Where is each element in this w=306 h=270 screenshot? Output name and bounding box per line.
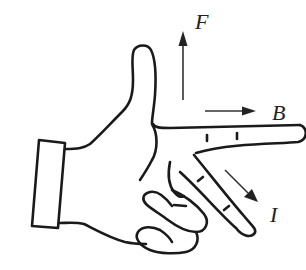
middle-knuckle-1 <box>198 177 203 181</box>
hand-outline-lower <box>59 223 146 244</box>
sleeve-cuff <box>32 140 65 228</box>
left-hand-rule-diagram: F B I <box>0 0 306 270</box>
field-arrow-head <box>242 107 256 116</box>
middle-finger <box>180 155 255 236</box>
ring-finger <box>143 190 206 232</box>
force-arrow-head <box>179 31 188 46</box>
force-label: F <box>194 9 209 34</box>
current-arrow-shaft <box>225 170 248 193</box>
middle-knuckle-2 <box>224 206 229 210</box>
field-label: B <box>272 100 285 125</box>
current-label: I <box>269 202 279 227</box>
palm-crease <box>140 124 157 180</box>
index-finger <box>196 125 306 153</box>
ring-knuckle <box>174 205 186 206</box>
